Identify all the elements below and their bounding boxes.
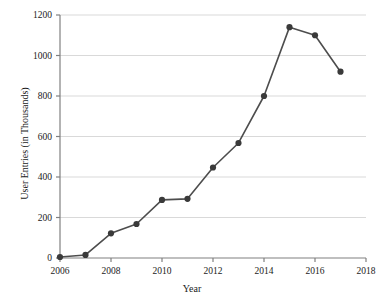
y-axis-tick-label: 400 [10, 172, 52, 182]
data-point-marker [133, 221, 139, 227]
x-axis-tick-label: 2010 [153, 266, 172, 276]
x-axis-tick-label: 2008 [102, 266, 121, 276]
data-line [60, 27, 341, 257]
data-point-marker [57, 254, 63, 260]
data-point-marker [82, 252, 88, 258]
x-axis-tick-label: 2006 [51, 266, 70, 276]
y-axis-tick-label: 600 [10, 132, 52, 142]
line-chart: User Entries (in Thousands) Year 0200400… [0, 0, 384, 302]
data-point-marker [286, 24, 292, 30]
y-axis-tick-label: 0 [10, 253, 52, 263]
x-axis-tick-label: 2018 [357, 266, 376, 276]
x-axis-title: Year [0, 283, 384, 294]
data-point-marker [159, 197, 165, 203]
y-axis-tick-label: 800 [10, 91, 52, 101]
x-axis-tick-label: 2012 [204, 266, 223, 276]
data-point-marker [235, 140, 241, 146]
y-axis-title: User Entries (in Thousands) [19, 64, 30, 224]
data-point-marker [337, 69, 343, 75]
data-point-marker [261, 93, 267, 99]
data-point-marker [312, 32, 318, 38]
data-point-marker [210, 164, 216, 170]
x-axis-tick-label: 2016 [306, 266, 325, 276]
data-point-marker [108, 230, 114, 236]
data-point-marker [184, 196, 190, 202]
x-axis-tick-label: 2014 [255, 266, 274, 276]
y-axis-tick-label: 200 [10, 213, 52, 223]
y-axis-tick-label: 1200 [10, 10, 52, 20]
plot-area [0, 0, 384, 302]
y-axis-tick-label: 1000 [10, 51, 52, 61]
